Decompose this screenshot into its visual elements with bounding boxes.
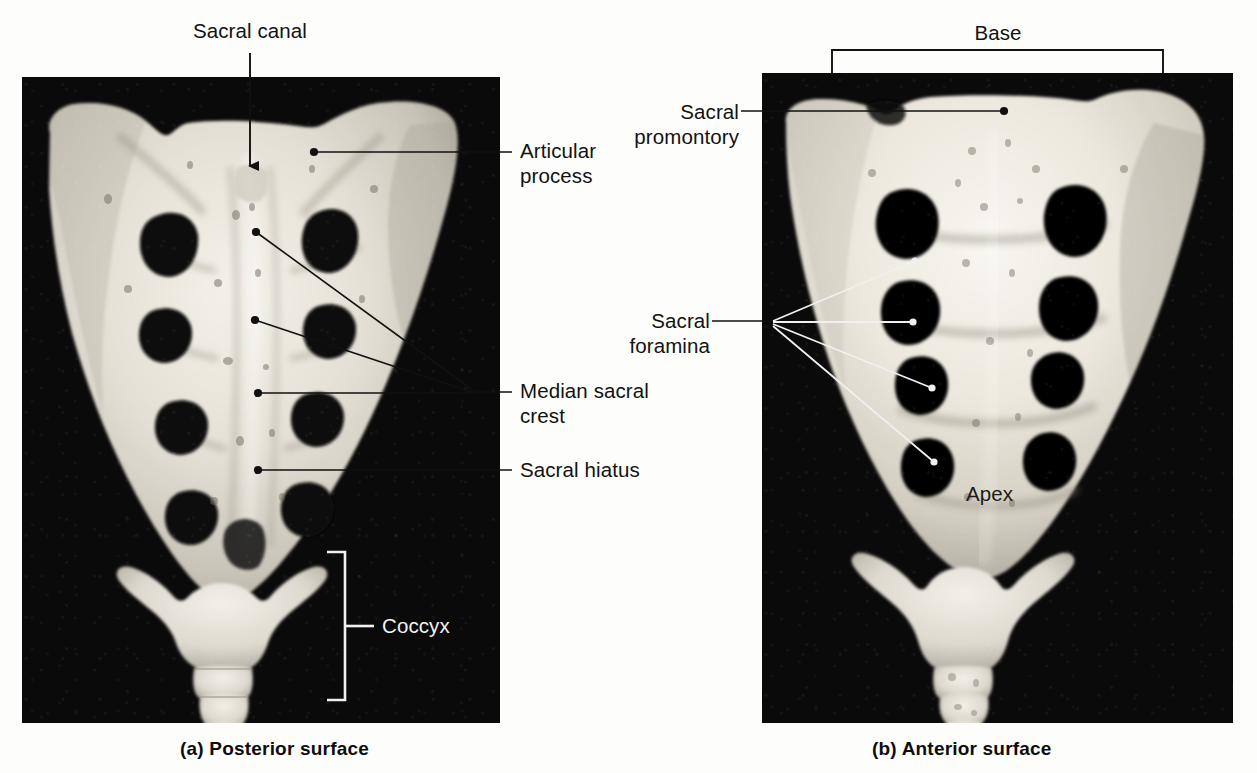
bracket-base [832, 49, 1163, 73]
anatomy-figure: Sacral canal Articular process Median sa… [0, 0, 1257, 773]
sacral-canal-opening [234, 165, 268, 203]
label-sacral-hiatus: Sacral hiatus [520, 457, 720, 482]
caption-panel-b: (b) Anterior surface [872, 738, 1052, 760]
photo-plate-anterior [762, 73, 1233, 723]
coccyx-bone-posterior [117, 567, 328, 723]
label-coccyx: Coccyx [382, 613, 502, 638]
anterior-sacrum-illustration [762, 73, 1233, 723]
label-sacral-canal: Sacral canal [193, 18, 373, 43]
label-base: Base [898, 20, 1098, 45]
label-apex: Apex [966, 481, 1086, 506]
caption-panel-a: (a) Posterior surface [180, 738, 369, 760]
label-sacral-promontory: Sacral promontory [600, 99, 739, 149]
coccyx-bone-anterior [852, 553, 1075, 723]
label-median-sacral-crest: Median sacral crest [520, 378, 720, 428]
label-sacral-foramina: Sacral foramina [572, 308, 710, 358]
